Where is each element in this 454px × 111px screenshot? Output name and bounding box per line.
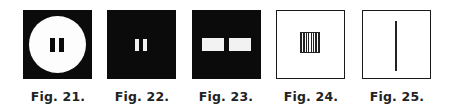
figure-25 (362, 10, 431, 79)
figure-23 (192, 10, 261, 79)
white-rect-right (229, 38, 251, 51)
caption-fig-22: Fig. 22. (97, 89, 187, 104)
black-bar-right (59, 38, 64, 52)
black-bar-left (50, 38, 55, 52)
figure-21 (23, 10, 92, 79)
white-circle (29, 16, 86, 73)
figure-24 (276, 10, 345, 79)
white-bar-left (135, 39, 139, 51)
caption-fig-25: Fig. 25. (352, 89, 442, 104)
caption-fig-24: Fig. 24. (266, 89, 356, 104)
vertical-line (395, 21, 397, 71)
caption-fig-23: Fig. 23. (181, 89, 271, 104)
figure-22 (107, 10, 176, 79)
white-bar-right (143, 39, 147, 51)
striped-square (300, 32, 320, 53)
caption-fig-21: Fig. 21. (13, 89, 103, 104)
white-rect-left (202, 38, 224, 51)
